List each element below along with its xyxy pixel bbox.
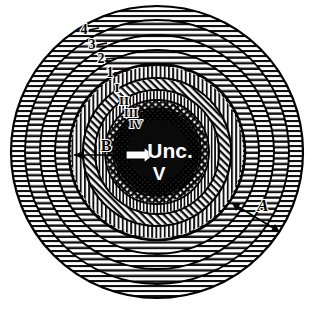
concentric-zone-diagram: A B 4 3 2 1 I II III IV Unc. V <box>0 0 311 313</box>
zone-label-4: 4 <box>81 22 88 37</box>
arrow-B-label: B <box>101 137 112 154</box>
core-label-secondary: V <box>153 163 166 184</box>
core-label-primary: Unc. <box>147 139 193 162</box>
zone-label-1: 1 <box>107 65 114 80</box>
diagram-canvas: A B 4 3 2 1 I II III IV Unc. V <box>0 0 311 313</box>
zone-label-IV: IV <box>129 117 143 131</box>
zone-label-2: 2 <box>98 51 105 66</box>
arrow-A-label: A <box>256 196 268 215</box>
zone-label-3: 3 <box>89 37 96 52</box>
